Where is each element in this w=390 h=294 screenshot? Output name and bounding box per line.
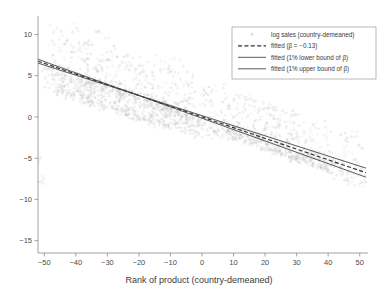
- y-tick-label: −15: [19, 236, 32, 245]
- legend: log sales (country-demeaned)fitted (β = …: [232, 27, 376, 79]
- y-tick-label: −10: [19, 195, 32, 204]
- x-tick-label: −40: [69, 258, 82, 267]
- y-tick-label: 10: [24, 30, 32, 39]
- legend-label: fitted (1% upper bound of β): [271, 65, 349, 73]
- x-tick-label: −10: [164, 258, 177, 267]
- x-tick-label: 0: [200, 258, 204, 267]
- x-tick-label: 10: [229, 258, 237, 267]
- x-tick-label: −20: [133, 258, 146, 267]
- x-tick-label: −50: [38, 258, 51, 267]
- x-axis-label: Rank of product (country-demeaned): [125, 275, 272, 285]
- x-tick-label: 40: [324, 258, 332, 267]
- y-tick-label: −5: [23, 154, 32, 163]
- y-tick-label: 0: [28, 113, 32, 122]
- x-tick-label: −30: [101, 258, 114, 267]
- y-tick-label: 5: [28, 71, 32, 80]
- x-tick-label: 20: [261, 258, 269, 267]
- legend-label: fitted (1% lower bound of β): [271, 54, 348, 62]
- legend-label: fitted (β = −0.13): [271, 42, 317, 50]
- legend-label: log sales (country-demeaned): [271, 31, 354, 39]
- x-tick-label: 30: [292, 258, 300, 267]
- scatter-plot-figure: 1050−5−10−15−50−40−30−20−1001020304050 l…: [0, 0, 390, 294]
- x-tick-label: 50: [356, 258, 364, 267]
